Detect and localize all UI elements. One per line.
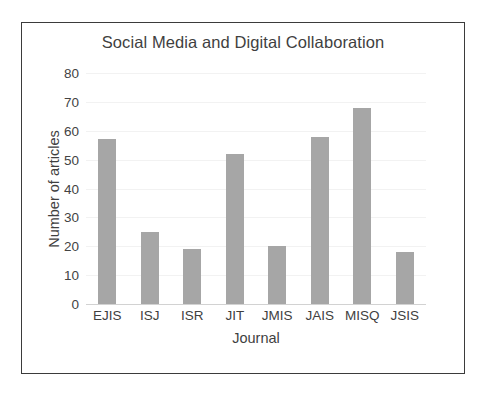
y-axis-tick-label: 50 [64,152,79,167]
bar-slot [86,73,129,304]
bar[interactable] [226,154,244,304]
x-axis-title: Journal [86,330,426,346]
bar-slot [171,73,214,304]
y-axis-tick-label: 0 [71,297,79,312]
x-axis-tick-label: EJIS [86,308,129,323]
x-axis-tick-label: ISR [171,308,214,323]
bar[interactable] [183,249,201,304]
bar[interactable] [353,108,371,304]
y-axis-tick-label: 60 [64,123,79,138]
bar-slot [341,73,384,304]
bar[interactable] [396,252,414,304]
bar[interactable] [311,137,329,304]
x-axis-tick-label: JAIS [299,308,342,323]
bar-slot [129,73,172,304]
bar-slot [256,73,299,304]
y-axis-tick-label: 10 [64,268,79,283]
plot-area: 80706050403020100 [86,73,426,304]
y-axis-tick-label: 80 [64,66,79,81]
x-axis-tick-label: ISJ [129,308,172,323]
y-axis-tick-label: 40 [64,181,79,196]
bar-slot [299,73,342,304]
bar-series [86,73,426,304]
x-axis-ticks: EJISISJISRJITJMISJAISMISQJSIS [86,308,426,323]
y-axis-tick-label: 20 [64,239,79,254]
x-axis-tick-label: JMIS [256,308,299,323]
y-axis-title-label: Number of articles [46,130,62,248]
bar-slot [384,73,427,304]
y-axis-title: Number of articles [44,73,64,304]
x-axis-tick-label: JIT [214,308,257,323]
bar[interactable] [268,246,286,304]
bar[interactable] [98,139,116,304]
y-axis-tick-label: 30 [64,210,79,225]
x-axis-tick-label: MISQ [341,308,384,323]
gridline [86,304,426,305]
y-axis-tick-label: 70 [64,94,79,109]
chart-frame: Social Media and Digital Collaboration N… [21,22,465,374]
bar-slot [214,73,257,304]
x-axis-tick-label: JSIS [384,308,427,323]
bar[interactable] [141,232,159,304]
chart-title: Social Media and Digital Collaboration [22,33,464,52]
